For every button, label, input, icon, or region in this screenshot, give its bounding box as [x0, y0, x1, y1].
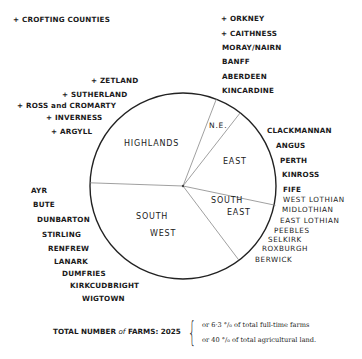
- county-dunbarton: DUNBARTON: [37, 216, 90, 223]
- total-suffix: FARMS: 2025: [125, 327, 180, 336]
- county-renfrew: RENFREW: [48, 245, 89, 252]
- county-wigtown: WIGTOWN: [82, 295, 125, 302]
- sector-label-east: EAST: [223, 158, 247, 166]
- county-zetland: + ZETLAND: [91, 77, 138, 84]
- sector-label-south-west-1: SOUTH: [136, 213, 168, 221]
- county-bute: BUTE: [33, 201, 55, 208]
- county-angus: ANGUS: [276, 142, 306, 149]
- sector-label-south-west-2: WEST: [150, 230, 176, 238]
- total-farms: TOTAL NUMBER of FARMS: 2025: [53, 327, 181, 336]
- county-aberdeen: ABERDEEN: [222, 73, 267, 80]
- county-west-lothian: WEST LOTHIAN: [283, 196, 345, 203]
- county-moray-nairn: MORAY/NAIRN: [222, 44, 282, 51]
- county-orkney: + ORKNEY: [221, 15, 264, 22]
- county-fife: FIFE: [283, 186, 301, 193]
- county-clackmannan: CLACKMANNAN: [267, 127, 332, 134]
- county-peebles: PEEBLES: [274, 227, 310, 234]
- county-roxburgh: ROXBURGH: [262, 245, 308, 252]
- pie-center: [182, 185, 184, 187]
- county-stirling: STIRLING: [42, 231, 81, 238]
- county-berwick: BERWICK: [255, 256, 292, 263]
- county-kincardine: KINCARDINE: [222, 87, 274, 94]
- pie-chart: [0, 0, 362, 359]
- boundary-highlands-ne: [183, 99, 216, 186]
- total-prefix: TOTAL NUMBER: [53, 327, 118, 336]
- county-ross-and-cromarty: + ROSS and CROMARTY: [17, 102, 116, 109]
- county-perth: PERTH: [280, 157, 307, 164]
- sector-label-highlands: HIGHLANDS: [124, 140, 179, 148]
- county-east-lothian: EAST LOTHIAN: [280, 217, 340, 224]
- sector-label-ne: N.E.: [209, 122, 227, 130]
- sector-label-south-east-2: EAST: [227, 209, 251, 217]
- boundary-southwest-highlands: [90, 183, 183, 186]
- note-full-time-farms: or 6·3 °/₀ of total full-time farms: [202, 321, 309, 329]
- county-kinross: KINROSS: [282, 171, 319, 178]
- note-agricultural-land: or 40 °/₀ of total agricultural land.: [202, 336, 316, 344]
- county-selkirk: SELKIRK: [268, 236, 302, 243]
- county-midlothian: MIDLOTHIAN: [282, 206, 333, 213]
- county-inverness: + INVERNESS: [46, 114, 102, 121]
- county-lanark: LANARK: [54, 258, 88, 265]
- county-banff: BANFF: [222, 58, 250, 65]
- county-kirkcudbright: KIRKCUDBRIGHT: [70, 282, 139, 289]
- sector-label-south-east-1: SOUTH: [211, 197, 243, 205]
- county-sutherland: + SUTHERLAND: [62, 91, 127, 98]
- county-caithness: + CAITHNESS: [221, 30, 277, 37]
- county-argyll: + ARGYLL: [51, 128, 92, 135]
- county-ayr: AYR: [31, 187, 47, 194]
- brace: {: [188, 319, 196, 347]
- county-dumfries: DUMFRIES: [62, 270, 106, 277]
